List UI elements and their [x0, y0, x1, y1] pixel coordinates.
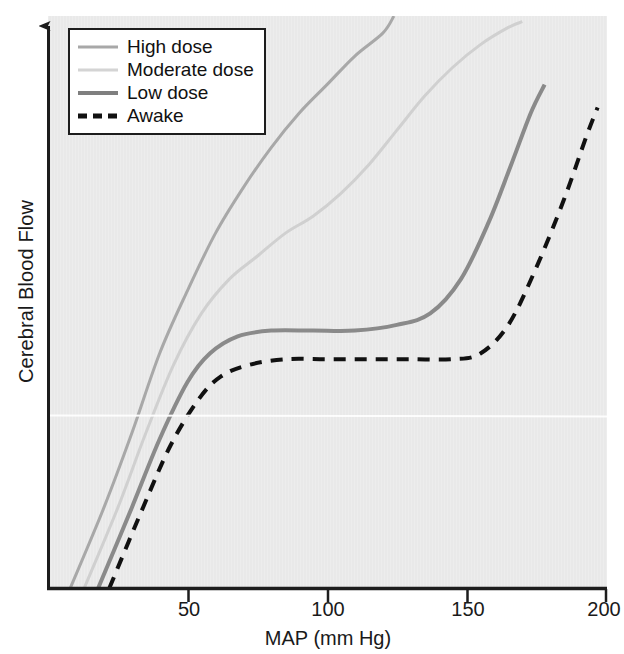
- x-axis-ticks: [189, 589, 607, 602]
- x-tick-label-50: 50: [178, 598, 200, 621]
- legend-swatch-awake: [78, 109, 118, 123]
- legend-swatch-moderate-dose: [78, 63, 118, 77]
- legend-item-moderate-dose: Moderate dose: [78, 58, 254, 81]
- legend-label-low-dose: Low dose: [127, 83, 208, 102]
- x-axis-title: MAP (mm Hg): [48, 627, 608, 650]
- legend-label-high-dose: High dose: [127, 37, 213, 56]
- scan-artifact-line: [48, 416, 607, 417]
- legend-label-moderate-dose: Moderate dose: [127, 60, 254, 79]
- legend-item-high-dose: High dose: [78, 35, 254, 58]
- legend-item-awake: Awake: [78, 104, 254, 127]
- chart-figure: 50 100 150 200 MAP (mm Hg) Cerebral Bloo…: [0, 0, 624, 654]
- y-axis-title: Cerebral Blood Flow: [15, 162, 38, 422]
- legend-swatch-low-dose: [78, 86, 118, 100]
- legend-label-awake: Awake: [127, 106, 184, 125]
- x-tick-label-100: 100: [311, 598, 344, 621]
- chart-legend: High dose Moderate dose Low dose Awake: [68, 28, 266, 135]
- legend-swatch-high-dose: [78, 40, 118, 54]
- x-tick-label-150: 150: [451, 598, 484, 621]
- x-tick-label-200: 200: [587, 598, 620, 621]
- legend-item-low-dose: Low dose: [78, 81, 254, 104]
